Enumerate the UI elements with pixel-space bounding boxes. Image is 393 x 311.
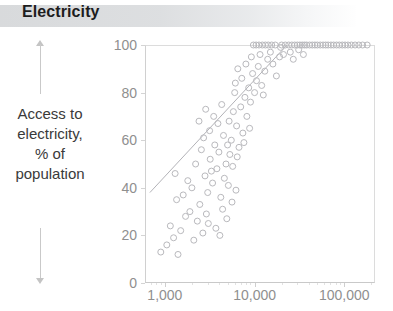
data-point [197,201,203,207]
data-point [210,180,216,186]
data-point [220,206,226,212]
data-point [230,109,236,115]
data-point [171,235,177,241]
data-point [227,151,233,157]
data-point [242,94,248,100]
data-point [221,175,227,181]
data-point [202,173,208,179]
data-point [167,223,173,229]
data-point [218,194,224,200]
data-point [217,232,223,238]
data-point [175,251,181,257]
data-point [267,49,273,55]
data-point [158,249,164,255]
data-point [243,61,249,67]
data-point [205,190,211,196]
data-point [226,118,232,124]
data-point [244,113,250,119]
scatter-plot: 020406080100 1,00010,000100,000 [0,0,393,311]
data-point [265,56,271,62]
data-point [290,56,296,62]
data-point [239,75,245,81]
data-point [198,147,204,153]
data-point [229,199,235,205]
data-point [187,209,193,215]
data-point [240,130,246,136]
data-point [224,216,230,222]
data-point [180,192,186,198]
data-point [241,140,247,146]
data-point [194,218,200,224]
data-point [300,52,306,58]
data-point [235,66,241,72]
data-point [252,90,258,96]
data-point [174,197,180,203]
data-point [193,161,199,167]
data-point [200,230,206,236]
chart-screenshot: Electricity Access to electricity, % of … [0,0,393,311]
data-point [364,42,370,48]
data-point [203,106,209,112]
data-point [215,121,221,127]
data-point [201,135,207,141]
data-point [191,237,197,243]
data-point [196,118,202,124]
data-point [189,185,195,191]
data-point [273,73,279,79]
data-point [211,113,217,119]
data-point [185,178,191,184]
data-point [236,144,242,150]
data-point [232,80,238,86]
data-point [247,125,253,131]
data-point [228,137,234,143]
data-point [213,225,219,231]
data-point [164,242,170,248]
data-point [250,71,256,77]
data-point [257,52,263,58]
data-point [233,187,239,193]
data-point [230,163,236,169]
data-point [223,161,229,167]
data-point [259,82,265,88]
data-point [287,49,293,55]
data-point [248,54,254,60]
data-point [238,104,244,110]
data-point [219,102,225,108]
data-point [208,168,214,174]
data-point [205,221,211,227]
data-point [216,149,222,155]
data-point [255,63,261,69]
data-point [234,123,240,129]
data-point [270,61,276,67]
trend-line [150,45,287,193]
data-point [203,211,209,217]
data-point [232,90,238,96]
data-point [260,92,266,98]
data-point [207,156,213,162]
data-point [247,99,253,105]
data-point [225,182,231,188]
data-point [178,228,184,234]
scatter-canvas [0,0,393,311]
data-point [172,171,178,177]
data-point [234,154,240,160]
data-point [212,142,218,148]
data-point [220,132,226,138]
